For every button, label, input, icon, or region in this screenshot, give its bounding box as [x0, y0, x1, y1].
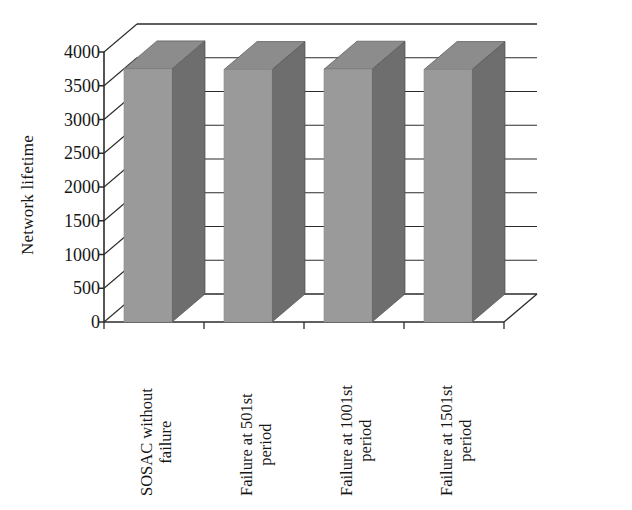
x-axis-category-label-line: Failure at 1001st — [337, 385, 356, 496]
x-axis-category-label-line: SOSAC without — [137, 388, 156, 496]
x-axis-category-label: Failure at 1001stperiod — [337, 385, 375, 496]
bar-front-face — [324, 69, 372, 322]
x-axis-category-label: Failure at 1501stperiod — [437, 385, 475, 496]
bar-chart-figure: Network lifetime 40003500300025002000150… — [0, 0, 632, 510]
x-axis-category-label-line: failure — [156, 388, 175, 496]
grid-connector — [104, 24, 137, 52]
floor-right-edge — [504, 294, 537, 322]
bar-front-face — [424, 70, 472, 322]
x-axis-category-label-line: Failure at 1501st — [437, 385, 456, 496]
bar-side-face — [272, 42, 305, 322]
x-axis-category-label: Failure at 501stperiod — [237, 393, 275, 496]
bar-side-face — [172, 41, 205, 322]
x-axis-category-label-line: Failure at 501st — [237, 393, 256, 496]
bar-side-face — [372, 41, 405, 322]
bar-front-face — [124, 69, 172, 322]
x-axis-category-label-line: period — [256, 393, 275, 496]
bar-side-face — [472, 42, 505, 322]
x-axis-category-label: SOSAC withoutfailure — [137, 388, 175, 496]
bar-front-face — [224, 70, 272, 322]
plot-area — [0, 0, 632, 510]
x-axis-category-label-line: period — [356, 385, 375, 496]
x-axis-category-label-line: period — [456, 385, 475, 496]
